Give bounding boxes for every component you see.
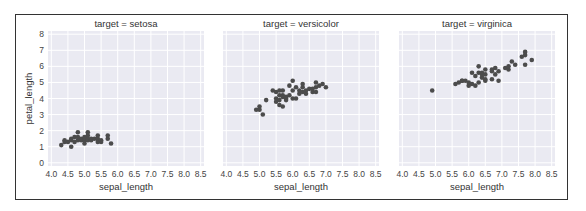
data-point: [294, 85, 299, 90]
data-point: [496, 69, 501, 74]
plot-area: [399, 31, 555, 166]
plot-area: [48, 31, 204, 166]
y-tick-label: 0: [30, 158, 44, 168]
data-point: [430, 88, 435, 93]
y-axis-label: petal_length: [23, 63, 34, 133]
facet-panel-3: target = virginica4.04.55.05.56.06.57.07…: [399, 31, 555, 166]
data-point: [69, 144, 74, 149]
data-point: [506, 64, 511, 69]
data-point: [287, 93, 292, 98]
data-point: [483, 67, 488, 72]
data-point: [470, 70, 475, 75]
data-point: [493, 72, 498, 77]
x-tick-label: 8.5: [366, 169, 386, 179]
data-point: [76, 130, 81, 135]
data-point: [300, 82, 305, 87]
data-point: [95, 133, 100, 138]
x-axis-label: sepal_length: [223, 181, 379, 192]
data-point: [280, 88, 285, 93]
data-point: [109, 141, 114, 146]
x-axis-label: sepal_length: [399, 181, 555, 192]
data-point: [290, 88, 295, 93]
data-point: [86, 130, 91, 135]
data-point: [523, 62, 528, 67]
data-point: [314, 90, 319, 95]
data-point: [287, 83, 292, 88]
y-tick-label: 1: [30, 142, 44, 152]
panel-title: target = virginica: [399, 18, 555, 29]
x-tick-label: 8.5: [542, 169, 562, 179]
facet-panel-2: target = versicolor4.04.55.05.56.06.57.0…: [223, 31, 379, 166]
data-point: [261, 112, 266, 117]
y-tick-label: 8: [30, 29, 44, 39]
panel-title: target = setosa: [48, 18, 204, 29]
data-point: [496, 79, 501, 84]
data-point: [493, 66, 498, 71]
data-point: [473, 74, 478, 79]
data-point: [483, 77, 488, 82]
x-tick-label: 8.5: [191, 169, 211, 179]
facet-panel-1: target = setosa4.04.55.05.56.06.57.07.58…: [48, 31, 204, 166]
data-point: [476, 80, 481, 85]
data-point: [99, 138, 104, 143]
y-tick-label: 7: [30, 45, 44, 55]
data-point: [510, 59, 515, 64]
data-point: [257, 107, 262, 112]
data-point: [277, 98, 282, 103]
data-point: [324, 85, 329, 90]
data-point: [264, 98, 269, 103]
data-point: [59, 143, 64, 148]
data-point: [314, 80, 319, 85]
plot-area: [223, 31, 379, 166]
data-point: [483, 72, 488, 77]
data-point: [490, 77, 495, 82]
x-axis-label: sepal_length: [48, 181, 204, 192]
data-point: [320, 82, 325, 87]
data-point: [523, 50, 528, 55]
data-point: [473, 83, 478, 88]
data-point: [105, 133, 110, 138]
data-point: [529, 58, 534, 63]
data-point: [513, 62, 518, 67]
data-point: [290, 79, 295, 84]
data-point: [476, 64, 481, 69]
data-point: [294, 96, 299, 101]
panel-title: target = versicolor: [223, 18, 379, 29]
data-point: [280, 104, 285, 109]
